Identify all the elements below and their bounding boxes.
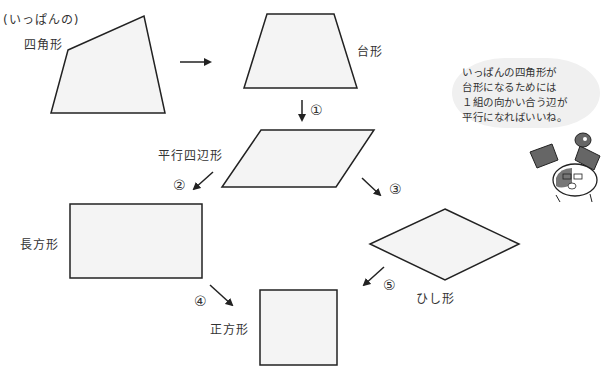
arrow-step-5 [364,267,384,285]
rectangle-shape [70,204,202,278]
speech-bubble-text: いっぱんの四角形が 台形になるためには １組の向かい合う辺が 平行になればいいね… [462,65,567,125]
parallelogram-label: 平行四辺形 [158,146,223,163]
rhombus-label: ひし形 [416,289,455,306]
speech-line: 平行になればいいね。 [462,110,567,125]
speech-line: １組の向かい合う辺が [462,95,567,110]
square-label: 正方形 [210,320,249,337]
speech-line: 台形になるためには [462,80,567,95]
speech-line: いっぱんの四角形が [462,65,567,80]
step-4-number: ④ [194,293,207,309]
diagram-canvas [0,0,605,373]
arrow-step-3 [362,178,380,195]
rectangle-label: 長方形 [20,235,59,252]
trapezoid-label: 台形 [357,42,383,59]
step-2-number: ② [173,177,186,193]
parallelogram-shape [222,130,374,187]
general-quadrilateral-shape [51,16,165,113]
general-quadrilateral-label: 四角形 [24,35,63,52]
step-1-number: ① [310,102,323,118]
rhombus-shape [370,209,519,280]
arrow-step-2 [194,172,213,189]
square-shape [260,290,337,365]
arrow-step-4 [210,285,232,305]
trapezoid-shape [244,14,357,88]
step-3-number: ③ [389,181,402,197]
general-note-label: (いっぱんの) [3,10,79,27]
character-icon [530,133,600,202]
step-5-number: ⑤ [383,277,396,293]
